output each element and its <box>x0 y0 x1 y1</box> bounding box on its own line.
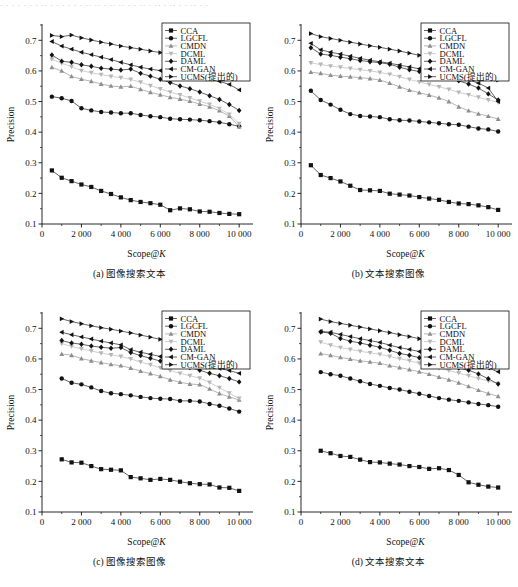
svg-text:UCMS(提出的): UCMS(提出的) <box>440 71 497 82</box>
svg-text:10 000: 10 000 <box>486 517 511 527</box>
svg-text:4 000: 4 000 <box>111 517 132 527</box>
svg-text:0.6: 0.6 <box>25 66 37 76</box>
svg-text:0.4: 0.4 <box>25 415 37 425</box>
svg-text:UCMS(提出的): UCMS(提出的) <box>440 359 497 370</box>
svg-text:0.3: 0.3 <box>25 158 37 168</box>
svg-text:0: 0 <box>40 517 45 527</box>
chart-panel-d: 0.10.20.30.40.50.60.702 0004 0006 0008 0… <box>259 299 518 587</box>
svg-text:0.1: 0.1 <box>25 219 36 229</box>
svg-text:6 000: 6 000 <box>409 517 430 527</box>
svg-text:Scope@K: Scope@K <box>127 537 166 547</box>
svg-text:0: 0 <box>299 517 304 527</box>
svg-text:Precision: Precision <box>6 395 16 431</box>
svg-text:2 000: 2 000 <box>330 517 351 527</box>
svg-text:0.6: 0.6 <box>284 66 296 76</box>
svg-text:Scope@K: Scope@K <box>386 537 425 547</box>
svg-text:10 000: 10 000 <box>227 517 252 527</box>
svg-text:UCMS(提出的): UCMS(提出的) <box>181 359 238 370</box>
chart-caption-c: (c) 图像搜索图像 <box>0 554 259 568</box>
plot-area-d: 0.10.20.30.40.50.60.702 0004 0006 0008 0… <box>259 299 518 557</box>
svg-text:4 000: 4 000 <box>370 517 391 527</box>
chart-caption-d: (d) 文本搜索文本 <box>259 554 518 568</box>
svg-text:0.4: 0.4 <box>284 127 296 137</box>
svg-text:0.5: 0.5 <box>25 97 37 107</box>
chart-panel-a: 0.10.20.30.40.50.60.702 0004 0006 0008 0… <box>0 11 259 299</box>
svg-text:0.1: 0.1 <box>284 507 295 517</box>
figure-grid: 0.10.20.30.40.50.60.702 0004 0006 0008 0… <box>0 11 518 587</box>
svg-text:2 000: 2 000 <box>71 517 92 527</box>
svg-text:UCMS(提出的): UCMS(提出的) <box>181 71 238 82</box>
svg-text:6 000: 6 000 <box>409 229 430 239</box>
plot-area-b: 0.10.20.30.40.50.60.702 0004 0006 0008 0… <box>259 11 518 269</box>
svg-text:2 000: 2 000 <box>71 229 92 239</box>
svg-text:4 000: 4 000 <box>370 229 391 239</box>
svg-text:8 000: 8 000 <box>449 229 470 239</box>
svg-text:0.2: 0.2 <box>25 189 36 199</box>
svg-text:0.7: 0.7 <box>284 36 296 46</box>
svg-text:0.3: 0.3 <box>25 446 37 456</box>
chart-caption-b: (b) 文本搜索图像 <box>259 266 518 280</box>
svg-text:0.7: 0.7 <box>25 324 37 334</box>
svg-text:0.1: 0.1 <box>284 219 295 229</box>
svg-text:0.5: 0.5 <box>284 97 296 107</box>
svg-text:Scope@K: Scope@K <box>386 249 425 259</box>
svg-text:0.3: 0.3 <box>284 158 296 168</box>
chart-panel-b: 0.10.20.30.40.50.60.702 0004 0006 0008 0… <box>259 11 518 299</box>
svg-text:0.6: 0.6 <box>284 354 296 364</box>
svg-text:8 000: 8 000 <box>449 517 470 527</box>
plot-area-a: 0.10.20.30.40.50.60.702 0004 0006 0008 0… <box>0 11 259 269</box>
svg-text:0: 0 <box>40 229 45 239</box>
chart-caption-a: (a) 图像搜索文本 <box>0 266 259 280</box>
svg-text:0.2: 0.2 <box>284 189 295 199</box>
svg-text:0: 0 <box>299 229 304 239</box>
chart-panel-c: 0.10.20.30.40.50.60.702 0004 0006 0008 0… <box>0 299 259 587</box>
svg-text:0.7: 0.7 <box>284 324 296 334</box>
svg-text:0.2: 0.2 <box>284 477 295 487</box>
svg-text:0.1: 0.1 <box>25 507 36 517</box>
svg-text:0.4: 0.4 <box>284 415 296 425</box>
svg-text:0.5: 0.5 <box>25 385 37 395</box>
page-top-cut-text: · · · · · · · ·· · · · · · · ·· ·· · ·· … <box>0 0 518 11</box>
svg-text:6 000: 6 000 <box>150 517 171 527</box>
svg-text:Scope@K: Scope@K <box>127 249 166 259</box>
svg-text:Precision: Precision <box>6 107 16 143</box>
svg-text:10 000: 10 000 <box>486 229 511 239</box>
svg-text:0.7: 0.7 <box>25 36 37 46</box>
svg-text:2 000: 2 000 <box>330 229 351 239</box>
svg-text:0.6: 0.6 <box>25 354 37 364</box>
svg-text:0.3: 0.3 <box>284 446 296 456</box>
svg-text:0.2: 0.2 <box>25 477 36 487</box>
svg-text:0.4: 0.4 <box>25 127 37 137</box>
svg-text:4 000: 4 000 <box>111 229 132 239</box>
svg-text:6 000: 6 000 <box>150 229 171 239</box>
svg-text:Precision: Precision <box>265 395 275 431</box>
svg-text:8 000: 8 000 <box>190 517 211 527</box>
svg-text:8 000: 8 000 <box>190 229 211 239</box>
svg-text:Precision: Precision <box>265 107 275 143</box>
svg-text:0.5: 0.5 <box>284 385 296 395</box>
svg-text:10 000: 10 000 <box>227 229 252 239</box>
plot-area-c: 0.10.20.30.40.50.60.702 0004 0006 0008 0… <box>0 299 259 557</box>
